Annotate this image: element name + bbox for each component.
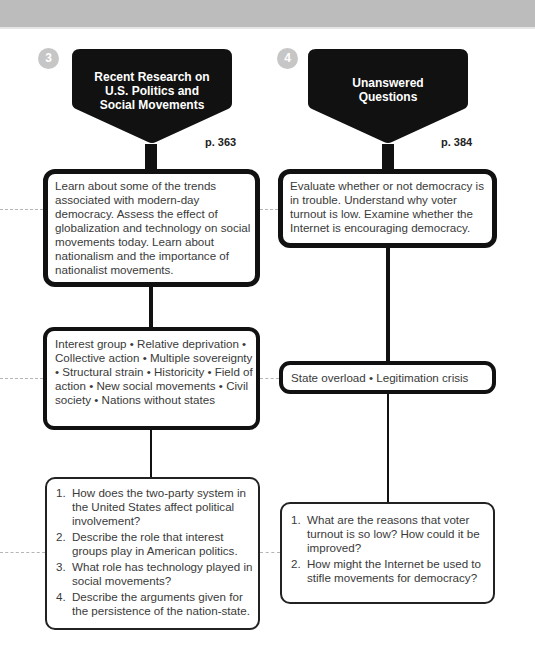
review-questions-box: 1.What are the reasons that voter turnou…	[280, 502, 495, 604]
key-terms-text: State overload • Legitimation crisis	[291, 371, 491, 385]
section-title-line: Unanswered	[308, 76, 468, 90]
learning-objectives-text: Evaluate whether or not democracy is in …	[290, 179, 494, 235]
section-title: Unanswered Questions	[308, 76, 468, 104]
section-title: Recent Research on U.S. Politics and Soc…	[72, 70, 232, 112]
learning-objectives-box: Learn about some of the trends associate…	[43, 169, 260, 287]
header-stem	[145, 144, 157, 170]
question-item: 3.What role has technology played in soc…	[56, 560, 256, 588]
top-band-edge	[0, 27, 535, 29]
section-title-line: Social Movements	[72, 98, 232, 112]
question-text: What are the reasons that voter turnout …	[307, 513, 480, 554]
question-item: 4.Describe the arguments given for the p…	[56, 590, 256, 618]
learning-objectives-text: Learn about some of the trends associate…	[55, 179, 255, 277]
question-text: Describe the role that interest groups p…	[72, 530, 238, 557]
header-stem	[382, 144, 394, 170]
key-terms-box: State overload • Legitimation crisis	[279, 361, 496, 394]
top-band	[0, 0, 535, 27]
question-item: 1.How does the two-party system in the U…	[56, 486, 256, 528]
row-guide-objectives-left	[0, 209, 43, 210]
review-questions-list: 1.How does the two-party system in the U…	[56, 486, 256, 620]
row-guide-terms-mid	[260, 378, 279, 379]
question-number: 3.	[56, 560, 66, 574]
review-questions-box: 1.How does the two-party system in the U…	[45, 477, 260, 630]
page-reference: p. 363	[205, 136, 236, 148]
row-guide-questions-mid	[260, 552, 280, 553]
question-item: 2.How might the Internet be used to stif…	[291, 557, 487, 585]
connector-line	[387, 393, 389, 503]
question-text: What role has technology played in socia…	[72, 560, 252, 587]
question-number: 1.	[56, 486, 66, 500]
question-number: 4.	[56, 590, 66, 604]
question-text: Describe the arguments given for the per…	[72, 590, 250, 617]
question-text: How does the two-party system in the Uni…	[72, 486, 246, 527]
row-guide-terms-left	[0, 378, 43, 379]
question-number: 2.	[56, 530, 66, 544]
connector-line	[149, 286, 153, 328]
page-reference: p. 384	[441, 136, 472, 148]
section-title-line: U.S. Politics and	[72, 84, 232, 98]
row-guide-objectives-mid	[260, 209, 278, 210]
key-terms-text: Interest group • Relative deprivation • …	[55, 337, 259, 407]
question-number: 1.	[291, 513, 301, 527]
question-number: 2.	[291, 557, 301, 571]
section-title-line: Recent Research on	[72, 70, 232, 84]
connector-line	[386, 247, 390, 362]
section-number-badge: 3	[38, 48, 59, 69]
section-title-line: Questions	[308, 90, 468, 104]
key-terms-box: Interest group • Relative deprivation • …	[43, 327, 260, 430]
section-number-badge: 4	[277, 48, 298, 69]
learning-objectives-box: Evaluate whether or not democracy is in …	[278, 169, 497, 248]
row-guide-questions-left	[0, 552, 45, 553]
question-item: 1.What are the reasons that voter turnou…	[291, 513, 487, 555]
question-item: 2.Describe the role that interest groups…	[56, 530, 256, 558]
review-questions-list: 1.What are the reasons that voter turnou…	[291, 513, 487, 587]
question-text: How might the Internet be used to stifle…	[307, 557, 481, 584]
connector-line	[150, 429, 152, 478]
